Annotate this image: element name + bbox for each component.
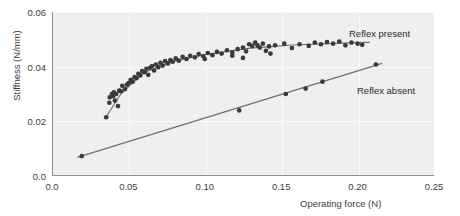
- gridline-horizontal: [53, 67, 434, 68]
- y-tick-label: 0.06: [2, 7, 46, 18]
- gridline-vertical: [282, 12, 283, 175]
- y-tick-label: 0.04: [2, 62, 46, 73]
- x-tick-label: 0.25: [414, 181, 454, 192]
- gridline-horizontal: [53, 121, 434, 122]
- x-axis-label: Operating force (N): [300, 198, 381, 209]
- x-tick-label: 0.05: [108, 181, 148, 192]
- x-tick-label: 0.15: [261, 181, 301, 192]
- gridline-horizontal: [53, 12, 434, 13]
- y-axis-label: Stiffness (N/mm): [11, 6, 22, 126]
- x-tick-label: 0.20: [338, 181, 378, 192]
- gridline-vertical: [129, 12, 130, 175]
- gridline-vertical: [206, 12, 207, 175]
- series-label-reflex-present: Reflex present: [349, 28, 410, 39]
- x-tick-label: 0.10: [185, 181, 225, 192]
- chart-figure: 0.06 0.04 0.02 0.0 0.0 0.05 0.10 0.15 0.…: [0, 0, 460, 216]
- y-tick-label: 0.02: [2, 116, 46, 127]
- x-tick-label: 0.0: [32, 181, 72, 192]
- series-label-reflex-absent: Reflex absent: [357, 85, 415, 96]
